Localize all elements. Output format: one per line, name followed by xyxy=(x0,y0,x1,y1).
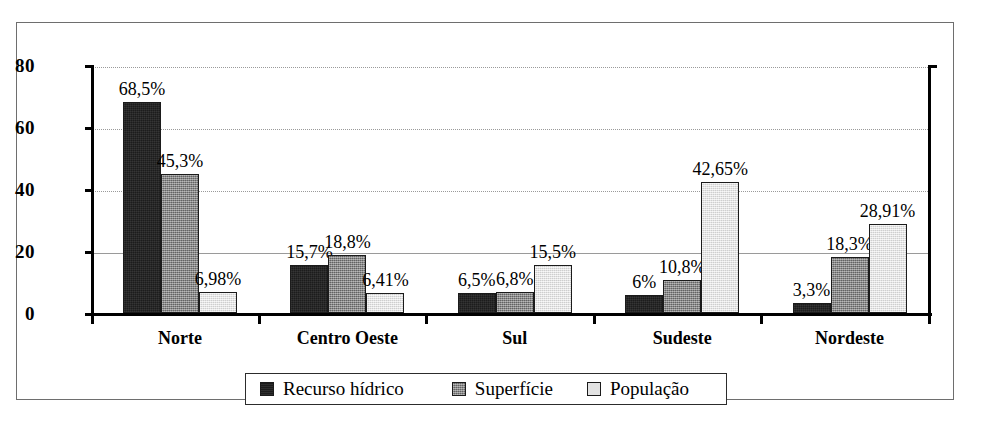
legend-label: População xyxy=(610,379,689,399)
legend-item-populacao: População xyxy=(587,379,689,399)
legend-label: Recurso hídrico xyxy=(283,379,404,399)
legend-item-superficie: Superfície xyxy=(452,379,553,399)
chart-legend: Recurso hídrico Superfície População xyxy=(245,373,727,405)
legend-label: Superfície xyxy=(475,379,553,399)
category-labels-layer: NorteCentro OesteSulSudesteNordeste xyxy=(17,23,955,401)
light-gray-swatch-icon xyxy=(587,382,601,396)
category-label: Nordeste xyxy=(815,328,884,348)
category-label: Centro Oeste xyxy=(297,328,398,348)
chart-page: 80 60 40 20 0 68,5%45,3%6,98%15,7%18,8%6… xyxy=(0,0,984,425)
category-label: Sul xyxy=(502,328,527,348)
figure-frame: 80 60 40 20 0 68,5%45,3%6,98%15,7%18,8%6… xyxy=(16,22,954,400)
dark-swatch-icon xyxy=(260,382,274,396)
legend-item-recurso-hidrico: Recurso hídrico xyxy=(260,379,404,399)
category-label: Norte xyxy=(158,328,202,348)
medium-gray-swatch-icon xyxy=(452,382,466,396)
category-label: Sudeste xyxy=(653,328,712,348)
